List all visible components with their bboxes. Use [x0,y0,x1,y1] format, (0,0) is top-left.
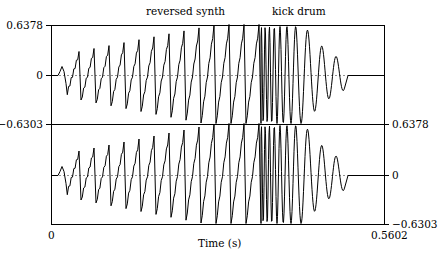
x-min-label: 0 [48,230,55,241]
ch2-ymax-label: 0.6378 [392,119,429,130]
waveform-channel-2 [51,124,384,224]
ch2-zero-label: 0 [392,170,399,181]
annotation-kick-drum: kick drum [272,6,326,17]
annotation-reversed-synth: reversed synth [146,6,225,17]
ch1-ymin-label: −0.6303 [0,119,43,130]
x-axis-label: Time (s) [198,238,241,249]
x-max-label: 0.5602 [371,230,408,241]
waveform-channel-1 [51,25,384,124]
ch1-zero-label: 0 [36,70,43,81]
ch1-ymax-label: 0.6378 [6,20,43,31]
ch2-ymin-label: −0.6303 [392,219,438,230]
